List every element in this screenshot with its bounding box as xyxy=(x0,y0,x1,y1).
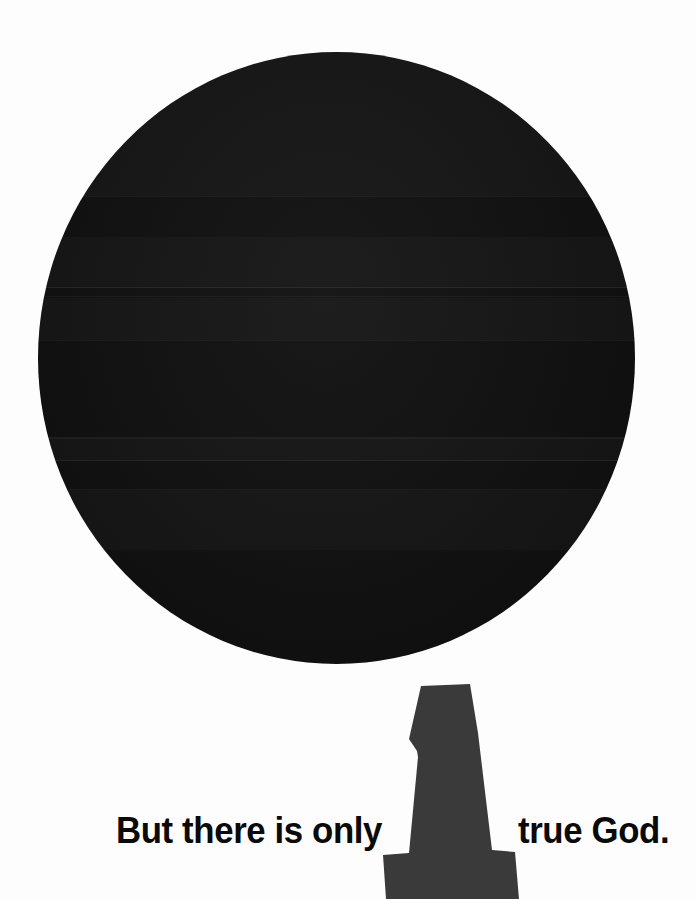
large-dark-circle xyxy=(38,52,635,664)
poster-canvas: But there is only true God. xyxy=(0,0,696,899)
circle-fill xyxy=(38,52,635,664)
caption-left-text: But there is only xyxy=(116,808,382,854)
numeral-one-path xyxy=(383,684,519,899)
caption-right-text: true God. xyxy=(518,808,669,854)
